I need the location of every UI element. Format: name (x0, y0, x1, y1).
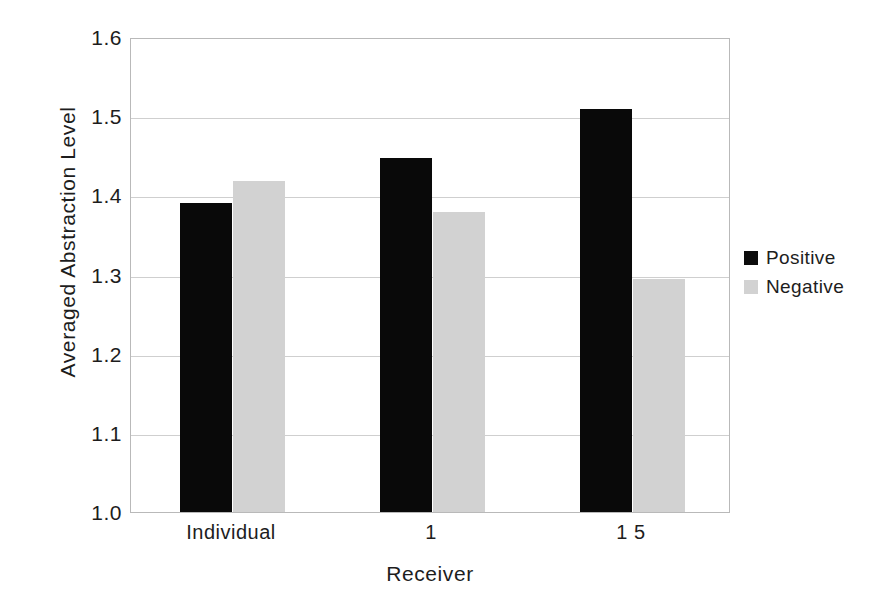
bar-negative-2 (633, 279, 685, 512)
legend-label: Negative (766, 276, 844, 298)
bar-negative-1 (433, 212, 485, 512)
x-axis-title: Receiver (130, 562, 730, 586)
y-axis-tick-label: 1.6 (66, 26, 122, 50)
bar-positive-1 (380, 158, 432, 512)
positive-swatch-icon (744, 251, 758, 265)
y-axis-tick-label: 1.0 (66, 501, 122, 525)
y-axis-tick-label: 1.3 (66, 264, 122, 288)
chart-legend: PositiveNegative (744, 243, 874, 301)
y-axis-tick-label: 1.1 (66, 422, 122, 446)
y-axis-tick-label: 1.5 (66, 105, 122, 129)
legend-label: Positive (766, 247, 836, 269)
legend-item-negative: Negative (744, 272, 874, 301)
x-axis-tick-labels: Individual11 5 (130, 521, 730, 555)
x-axis-tick-label: 1 5 (616, 521, 645, 544)
bar-chart-figure: Averaged Abstraction Level 1.61.51.41.31… (0, 0, 883, 614)
y-axis-tick-label: 1.2 (66, 343, 122, 367)
x-axis-tick-label: Individual (186, 521, 276, 544)
negative-swatch-icon (744, 280, 758, 294)
y-axis-tick-label: 1.4 (66, 184, 122, 208)
y-axis-tick-labels: 1.61.51.41.31.21.11.0 (58, 0, 122, 614)
legend-item-positive: Positive (744, 243, 874, 272)
bar-positive-2 (580, 109, 632, 512)
plot-area (130, 38, 730, 513)
bar-negative-0 (233, 181, 285, 512)
x-axis-tick-label: 1 (425, 521, 437, 544)
bar-positive-0 (180, 203, 232, 512)
bar-series-container (131, 39, 729, 512)
